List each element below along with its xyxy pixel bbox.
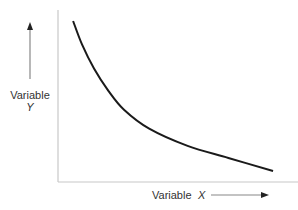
y-direction-arrow-head-icon [27, 22, 33, 30]
chart: Variable Y Variable X [0, 0, 298, 210]
x-direction-arrow-head-icon [261, 192, 269, 198]
y-axis-variable: Y [26, 101, 34, 113]
x-axis-label: Variable [152, 189, 192, 201]
series-curve [73, 21, 273, 171]
y-axis-label: Variable [10, 89, 50, 101]
x-axis-variable: X [197, 189, 206, 201]
